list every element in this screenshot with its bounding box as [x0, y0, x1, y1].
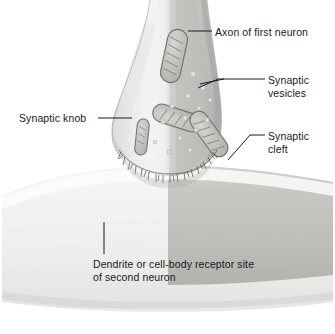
label-synaptic-cleft-line2: cleft: [268, 143, 288, 155]
label-dendrite-line1: Dendrite or cell-body receptor site: [93, 258, 254, 270]
label-synaptic-vesicles-line1: Synaptic: [268, 74, 309, 86]
label-synaptic-knob: Synaptic knob: [19, 112, 86, 125]
label-dendrite-receptor-site: Dendrite or cell-body receptor siteof se…: [93, 258, 254, 283]
synapse-diagram-figure: Axon of first neuron Synapticvesicles Sy…: [0, 0, 335, 334]
synapse-illustration: [0, 0, 335, 334]
label-synaptic-cleft: Synapticcleft: [268, 130, 309, 155]
label-synaptic-vesicles-line2: vesicles: [268, 87, 306, 99]
label-synaptic-vesicles: Synapticvesicles: [268, 74, 309, 99]
label-dendrite-line2: of second neuron: [93, 271, 176, 283]
label-axon-of-first-neuron: Axon of first neuron: [215, 26, 308, 39]
label-synaptic-cleft-line1: Synaptic: [268, 130, 309, 142]
